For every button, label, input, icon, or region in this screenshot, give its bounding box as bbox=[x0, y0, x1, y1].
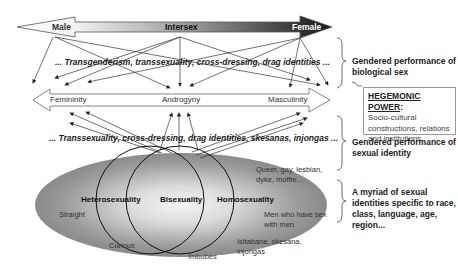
hegemonic-power-box: HEGEMONIC POWER: Socio-cultural construc… bbox=[363, 87, 456, 135]
hegemonic-title: HEGEMONIC POWER: bbox=[368, 91, 451, 113]
label-bisexuality: Bisexuality bbox=[160, 196, 202, 204]
label-curious: Curious bbox=[109, 242, 135, 250]
band-top-text: ... Transgenderism, transsexuality, cros… bbox=[55, 58, 330, 67]
label-intersex: Intersex bbox=[165, 23, 198, 32]
label-straight: Straight bbox=[59, 211, 85, 219]
brace-biological bbox=[337, 38, 346, 88]
label-msm-line1: Men who have sex bbox=[264, 211, 327, 219]
label-masculinity: Masculinity bbox=[268, 96, 308, 104]
hegemonic-colon: : bbox=[400, 102, 403, 113]
note-sexual-line1: Gendered performance of bbox=[352, 137, 456, 148]
label-heterosexuality: Heterosexuality bbox=[81, 196, 141, 204]
note-biological-sex: Gendered performance of biological sex bbox=[352, 56, 456, 78]
note-biological-line1: Gendered performance of bbox=[352, 56, 456, 67]
connector-hegemonic bbox=[352, 82, 362, 86]
note-biological-line2: biological sex bbox=[352, 67, 456, 78]
label-androgyny: Androgyny bbox=[162, 96, 200, 104]
label-male: Male bbox=[52, 23, 71, 32]
label-msm-line2: with men bbox=[264, 221, 294, 229]
label-femininity: Femininity bbox=[50, 96, 86, 104]
label-homosexuality: Homosexuality bbox=[217, 196, 274, 204]
brace-myriad bbox=[337, 180, 346, 222]
label-female: Female bbox=[292, 23, 321, 32]
label-queer-line2: dyke, moffie... bbox=[256, 176, 303, 184]
note-myriad-line2: identities specific to race, bbox=[352, 198, 456, 209]
note-sexual-line2: sexual identity bbox=[352, 148, 456, 159]
band-middle-text: ... Transsexuality, cross-dressing, drag… bbox=[49, 134, 338, 143]
brace-sexual bbox=[337, 116, 346, 170]
note-myriad-line1: A myriad of sexual bbox=[352, 187, 456, 198]
note-sexual-identity: Gendered performance of sexual identity bbox=[352, 137, 456, 159]
note-myriad-line4: region... bbox=[352, 220, 456, 231]
label-imbubes: Imbubes bbox=[188, 253, 217, 261]
note-myriad: A myriad of sexual identities specific t… bbox=[352, 187, 456, 231]
note-myriad-line3: class, language, age, bbox=[352, 209, 456, 220]
label-queer-line1: Queer, gay, lesbian, bbox=[256, 166, 322, 174]
label-isitabane-line1: Isitabane, skesana, bbox=[237, 238, 302, 246]
label-isitabane-line2: injongas bbox=[237, 248, 265, 256]
hegemonic-line1: Socio-cultural bbox=[368, 113, 451, 124]
hegemonic-title-text: HEGEMONIC POWER bbox=[368, 91, 420, 112]
hegemonic-line2: constructions, relations bbox=[368, 124, 451, 135]
